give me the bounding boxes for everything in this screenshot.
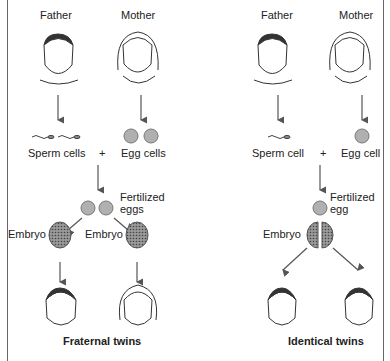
label-embryo-1: Embryo: [8, 228, 46, 240]
label-sperm-cell: Sperm cell: [252, 147, 304, 159]
label-fertilized: Fertilized: [120, 191, 165, 203]
label-plus: +: [99, 147, 105, 159]
label-eggs: eggs: [120, 203, 144, 215]
label-egg-r: egg: [330, 203, 348, 215]
label-egg-cells: Egg cells: [121, 147, 166, 159]
sperm-icon: [32, 135, 290, 138]
label-sperm-cells: Sperm cells: [28, 147, 85, 159]
label-father-r: Father: [261, 9, 293, 21]
label-mother: Mother: [121, 9, 155, 21]
label-mother-r: Mother: [339, 9, 373, 21]
diagram-graphics: [0, 0, 390, 361]
label-egg-cell: Egg cell: [341, 147, 380, 159]
caption-fraternal: Fraternal twins: [63, 335, 141, 347]
label-fertilized-r: Fertilized: [330, 191, 375, 203]
label-embryo-r: Embryo: [263, 228, 301, 240]
mother-face-icon: [118, 32, 159, 83]
father-face-icon: [40, 34, 78, 84]
caption-identical: Identical twins: [288, 335, 364, 347]
label-embryo-2: Embryo: [85, 228, 123, 240]
label-plus-r: +: [320, 147, 326, 159]
label-father: Father: [40, 9, 72, 21]
